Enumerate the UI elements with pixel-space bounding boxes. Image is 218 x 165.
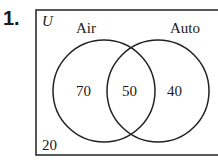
set-label-auto: Auto [170,20,200,36]
universe-label: U [42,13,54,29]
problem-number: 1. [3,7,20,29]
region-auto-only: 40 [167,83,182,99]
set-label-air: Air [76,20,96,36]
region-intersection: 50 [122,83,137,99]
region-outside: 20 [42,137,57,153]
venn-diagram-figure: 1. U Air Auto 70 50 40 20 [0,0,218,165]
region-air-only: 70 [76,83,91,99]
set-circle-air [53,40,155,142]
